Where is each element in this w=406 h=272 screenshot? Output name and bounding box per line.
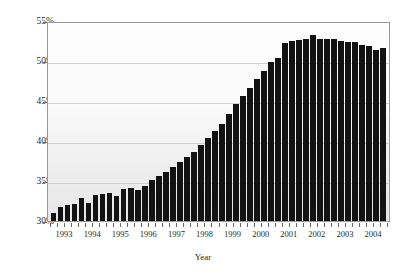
- x-axis-tick-mark: [233, 223, 234, 227]
- bar: [296, 40, 302, 221]
- x-axis-tick-mark: [331, 223, 332, 227]
- bar: [107, 193, 113, 221]
- bar: [331, 39, 337, 221]
- bar: [219, 124, 225, 221]
- x-axis-tick-mark: [113, 223, 114, 227]
- x-axis-tick-mark: [183, 223, 184, 227]
- bar: [352, 42, 358, 221]
- bar: [114, 196, 120, 221]
- x-axis-tick-mark: [247, 223, 248, 227]
- bar: [121, 189, 127, 221]
- x-axis-tick-mark: [296, 223, 297, 227]
- plot-area: [47, 22, 390, 222]
- bar: [93, 195, 99, 221]
- x-axis-tick-mark: [50, 223, 51, 227]
- x-axis-tick-mark: [352, 223, 353, 227]
- x-axis-tick-mark: [211, 223, 212, 227]
- bar: [282, 43, 288, 221]
- x-axis-tick-mark: [373, 223, 374, 227]
- bar: [128, 188, 134, 221]
- x-axis-tick-mark: [240, 223, 241, 227]
- x-axis-tick-mark: [92, 223, 93, 227]
- bar: [240, 96, 246, 221]
- bar: [86, 203, 92, 221]
- x-axis-tick-mark: [268, 223, 269, 227]
- bar: [254, 79, 260, 221]
- bar: [58, 207, 64, 221]
- x-axis-tick-mark: [261, 223, 262, 227]
- x-axis-tick-mark: [254, 223, 255, 227]
- bar: [163, 172, 169, 221]
- x-axis-tick-mark: [85, 223, 86, 227]
- bar: [212, 131, 218, 221]
- bar: [247, 88, 253, 221]
- x-axis-tick-mark: [120, 223, 121, 227]
- bar: [65, 205, 71, 221]
- bar: [100, 194, 106, 221]
- bar: [233, 104, 239, 221]
- bar: [338, 41, 344, 221]
- x-axis-tick-mark: [141, 223, 142, 227]
- bar: [345, 42, 351, 221]
- x-axis-tick-mark: [317, 223, 318, 227]
- x-axis-tick-mark: [275, 223, 276, 227]
- x-axis-tick-label: 2004: [353, 230, 393, 239]
- bar: [72, 204, 78, 221]
- bar: [142, 186, 148, 221]
- x-axis-tick-mark: [190, 223, 191, 227]
- bar: [149, 180, 155, 221]
- bar: [359, 45, 365, 221]
- bar: [51, 213, 57, 221]
- y-axis-tick-mark: [43, 222, 47, 223]
- bar: [268, 62, 274, 221]
- x-axis-tick-mark: [338, 223, 339, 227]
- x-axis-tick-mark: [204, 223, 205, 227]
- x-axis-tick-mark: [289, 223, 290, 227]
- bar: [317, 39, 323, 221]
- bar: [156, 176, 162, 221]
- bar: [261, 71, 267, 221]
- bar: [310, 35, 316, 221]
- x-axis-tick-mark: [78, 223, 79, 227]
- x-axis-tick-mark: [219, 223, 220, 227]
- x-axis-tick-mark: [155, 223, 156, 227]
- x-axis-tick-mark: [176, 223, 177, 227]
- x-axis-tick-mark: [366, 223, 367, 227]
- bar: [191, 152, 197, 221]
- bar: [324, 39, 330, 221]
- x-axis-tick-mark: [380, 223, 381, 227]
- bar: [170, 167, 176, 221]
- x-axis-tick-mark: [310, 223, 311, 227]
- x-axis-tick-mark: [99, 223, 100, 227]
- bar: [198, 145, 204, 221]
- x-axis-tick-mark: [134, 223, 135, 227]
- bar: [177, 162, 183, 221]
- x-axis-tick-mark: [387, 223, 388, 227]
- bar: [303, 39, 309, 221]
- bar: [205, 138, 211, 221]
- bar: [135, 190, 141, 221]
- x-axis-title: Year: [0, 252, 406, 262]
- x-axis-tick-mark: [162, 223, 163, 227]
- bar: [366, 46, 372, 221]
- x-axis-tick-mark: [345, 223, 346, 227]
- x-axis-tick-mark: [303, 223, 304, 227]
- x-axis-tick-mark: [324, 223, 325, 227]
- x-axis-tick-mark: [226, 223, 227, 227]
- x-axis-tick-mark: [359, 223, 360, 227]
- bar: [275, 58, 281, 221]
- x-axis-tick-mark: [57, 223, 58, 227]
- x-axis-tick-mark: [64, 223, 65, 227]
- bar: [184, 157, 190, 221]
- x-axis-tick-mark: [71, 223, 72, 227]
- bar: [380, 48, 386, 221]
- x-axis-tick-mark: [127, 223, 128, 227]
- x-axis-tick-mark: [197, 223, 198, 227]
- x-axis-tick-mark: [106, 223, 107, 227]
- bar: [373, 50, 379, 221]
- bar: [226, 114, 232, 221]
- x-axis-tick-mark: [169, 223, 170, 227]
- bar: [289, 41, 295, 221]
- x-axis-tick-mark: [148, 223, 149, 227]
- bar: [79, 198, 85, 221]
